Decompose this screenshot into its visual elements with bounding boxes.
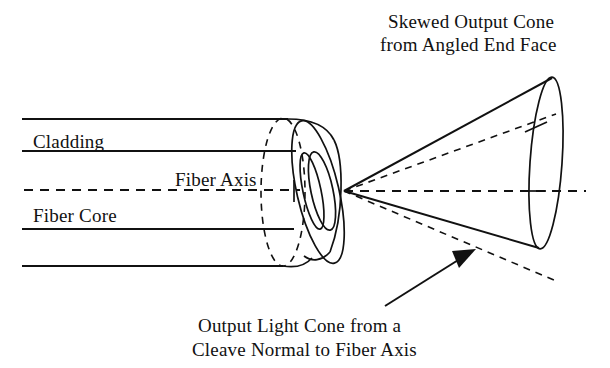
skewed-output-cone-group [344,76,568,250]
callout-arrow-shaft [385,257,463,306]
skewed-cone-lower-edge [344,191,539,248]
angled-end-face-rim [330,140,341,252]
normal-cleave-cross-section-ellipse [261,118,305,266]
normal-cleave-ellipse-group [261,118,305,266]
angled-end-face-group [281,116,355,268]
fiber-axis-group [24,180,300,202]
core-end-face-group [295,150,341,233]
angled-end-face-ellipse [281,116,355,268]
label-normal-cone-line1: Output Light Cone from a [198,315,402,336]
label-cladding: Cladding [33,131,105,152]
callout-arrow-head [452,249,476,268]
label-fiber-core: Fiber Core [33,205,117,226]
label-skewed-cone-line1: Skewed Output Cone [388,11,554,32]
label-normal-cone-line2: Cleave Normal to Fiber Axis [192,339,417,360]
angled-end-face-rim-lower [304,252,330,260]
normal-cone-lower-edge [344,191,556,281]
callout-arrow-group [385,249,476,306]
cladding-bottom-sweep [283,258,312,267]
diagram-canvas: Skewed Output Cone from Angled End Face … [0,0,610,368]
fiber-output-cone-diagram: Skewed Output Cone from Angled End Face … [0,0,610,368]
label-skewed-cone-line2: from Angled End Face [380,34,557,55]
normal-cone-upper-edge [344,114,556,191]
skewed-cone-upper-edge [344,78,552,191]
label-fiber-axis: Fiber Axis [175,169,257,190]
skewed-cone-far-field-ellipse [524,76,568,250]
